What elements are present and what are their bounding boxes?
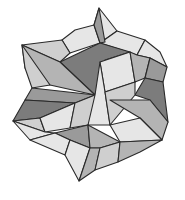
facet-mid [118, 140, 162, 162]
polyhedron-figure [0, 0, 185, 200]
polyhedron-drawing [0, 0, 185, 200]
